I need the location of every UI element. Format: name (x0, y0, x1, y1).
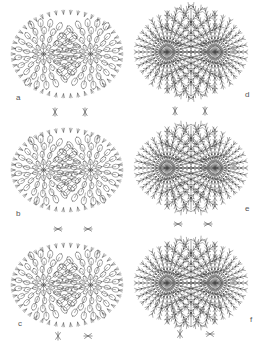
star-mark-f-1 (177, 330, 182, 339)
ellipse-drawing-b (11, 128, 123, 212)
panel-label-d: d (245, 91, 249, 99)
star-mark-b-2 (84, 227, 93, 232)
ellipse-drawing-f (134, 236, 248, 330)
panel-label-f: f (250, 316, 252, 324)
star-mark-e-1 (174, 222, 183, 227)
star-mark-c-2 (84, 333, 93, 338)
ellipse-drawing-e (134, 121, 248, 215)
star-mark-a-1 (53, 108, 58, 117)
figure-drawing (0, 0, 268, 355)
ellipse-drawing-d (134, 3, 248, 102)
star-mark-c-1 (55, 332, 60, 341)
star-mark-b-1 (54, 227, 63, 232)
star-mark-d-2 (203, 107, 208, 116)
star-mark-f-2 (206, 331, 215, 336)
star-mark-d-1 (173, 107, 178, 116)
panel-label-e: e (245, 205, 249, 213)
panel-label-c: c (18, 320, 22, 328)
ellipse-drawing-a (11, 10, 123, 98)
ellipse-drawing-c (11, 243, 123, 327)
panel-label-b: b (16, 210, 20, 218)
panel-label-a: a (16, 94, 20, 102)
star-mark-a-2 (83, 108, 88, 117)
star-mark-e-2 (204, 222, 213, 227)
